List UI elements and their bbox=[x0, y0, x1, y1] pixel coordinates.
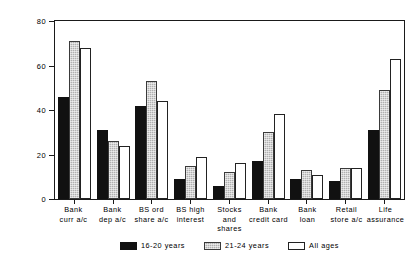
x-axis-label-line: Life bbox=[366, 205, 405, 215]
x-axis-label: Retailstore a/c bbox=[327, 205, 366, 235]
bar[interactable] bbox=[196, 157, 207, 199]
bar-group bbox=[174, 21, 207, 199]
bar[interactable] bbox=[135, 106, 146, 199]
bar[interactable] bbox=[174, 179, 185, 199]
legend-label: 21-24 years bbox=[225, 241, 269, 250]
bar[interactable] bbox=[108, 141, 119, 199]
x-axis-labels: Bankcurr a/cBankdep a/cBS ordshare a/cBS… bbox=[54, 205, 405, 235]
bar[interactable] bbox=[329, 181, 340, 199]
bar-group bbox=[97, 21, 130, 199]
bar[interactable] bbox=[185, 166, 196, 199]
y-tick-label-80: 80 bbox=[37, 17, 46, 26]
bar-group bbox=[213, 21, 246, 199]
legend-label: 16-20 years bbox=[141, 241, 185, 250]
bar[interactable] bbox=[290, 179, 301, 199]
x-axis-label-line: credit card bbox=[249, 215, 288, 225]
bar[interactable] bbox=[379, 90, 390, 199]
legend-swatch bbox=[204, 242, 221, 250]
x-axis-label-line: Bank bbox=[288, 205, 327, 215]
x-axis-label: Bankloan bbox=[288, 205, 327, 235]
x-axis-label: BS ordshare a/c bbox=[132, 205, 171, 235]
x-axis-label: BS highinterest bbox=[171, 205, 210, 235]
y-tick-label-40: 40 bbox=[37, 106, 46, 115]
bar-group bbox=[58, 21, 91, 199]
bar[interactable] bbox=[80, 48, 91, 199]
x-axis-label-line: BS ord bbox=[132, 205, 171, 215]
x-axis-label-line: Bank bbox=[54, 205, 93, 215]
y-tick-0 bbox=[49, 199, 55, 200]
bar[interactable] bbox=[213, 186, 224, 199]
x-axis-label-line: shares bbox=[210, 224, 249, 234]
x-axis-label-line: dep a/c bbox=[93, 215, 132, 225]
bar[interactable] bbox=[301, 170, 312, 199]
bar-group bbox=[329, 21, 362, 199]
bar[interactable] bbox=[235, 163, 246, 199]
x-axis-label: Bankdep a/c bbox=[93, 205, 132, 235]
bars-layer bbox=[55, 21, 404, 199]
bar-chart: Percentages 020406080 Bankcurr a/cBankde… bbox=[0, 0, 419, 266]
x-tick bbox=[345, 199, 346, 204]
y-tick-label-0: 0 bbox=[41, 195, 46, 204]
x-axis-label-line: interest bbox=[171, 215, 210, 225]
bar[interactable] bbox=[274, 114, 285, 199]
x-axis-label-line: loan bbox=[288, 215, 327, 225]
bar[interactable] bbox=[263, 132, 274, 199]
y-tick-label-20: 20 bbox=[37, 150, 46, 159]
bar[interactable] bbox=[146, 81, 157, 199]
bar[interactable] bbox=[368, 130, 379, 199]
bar[interactable] bbox=[312, 175, 323, 199]
x-tick bbox=[384, 199, 385, 204]
legend-item[interactable]: 21-24 years bbox=[204, 241, 269, 250]
x-axis-label: Lifeassurance bbox=[366, 205, 405, 235]
x-tick bbox=[229, 199, 230, 204]
x-tick bbox=[190, 199, 191, 204]
legend-swatch bbox=[120, 242, 137, 250]
bar[interactable] bbox=[252, 161, 263, 199]
y-tick-label-60: 60 bbox=[37, 61, 46, 70]
x-axis-label-line: Retail bbox=[327, 205, 366, 215]
bar[interactable] bbox=[351, 168, 362, 199]
x-axis-label-line: Bank bbox=[93, 205, 132, 215]
bar[interactable] bbox=[58, 97, 69, 199]
x-axis-label-line: Bank bbox=[249, 205, 288, 215]
legend-item[interactable]: All ages bbox=[288, 241, 339, 250]
bar-group bbox=[368, 21, 401, 199]
bar[interactable] bbox=[390, 59, 401, 199]
bar[interactable] bbox=[224, 172, 235, 199]
legend-swatch bbox=[288, 242, 305, 250]
bar[interactable] bbox=[340, 168, 351, 199]
x-tick bbox=[268, 199, 269, 204]
x-axis-label: Bankcredit card bbox=[249, 205, 288, 235]
x-axis-label-line: curr a/c bbox=[54, 215, 93, 225]
legend-label: All ages bbox=[309, 241, 339, 250]
bar[interactable] bbox=[97, 130, 108, 199]
bar[interactable] bbox=[157, 101, 168, 199]
x-axis-label-line: BS high bbox=[171, 205, 210, 215]
bar-group bbox=[135, 21, 168, 199]
x-axis-label: Bankcurr a/c bbox=[54, 205, 93, 235]
bar-group bbox=[290, 21, 323, 199]
x-axis-label-line: assurance bbox=[366, 215, 405, 225]
x-axis-label: Stocks andshares bbox=[210, 205, 249, 235]
legend: 16-20 years21-24 yearsAll ages bbox=[54, 241, 405, 250]
x-tick bbox=[306, 199, 307, 204]
bar-group bbox=[252, 21, 285, 199]
x-axis-label-line: Stocks and bbox=[210, 205, 249, 224]
legend-item[interactable]: 16-20 years bbox=[120, 241, 185, 250]
bar[interactable] bbox=[119, 146, 130, 199]
plot-area: 020406080 bbox=[54, 20, 405, 200]
x-tick bbox=[113, 199, 114, 204]
x-axis-label-line: store a/c bbox=[327, 215, 366, 225]
x-tick bbox=[151, 199, 152, 204]
x-tick bbox=[74, 199, 75, 204]
bar[interactable] bbox=[69, 41, 80, 199]
x-axis-label-line: share a/c bbox=[132, 215, 171, 225]
